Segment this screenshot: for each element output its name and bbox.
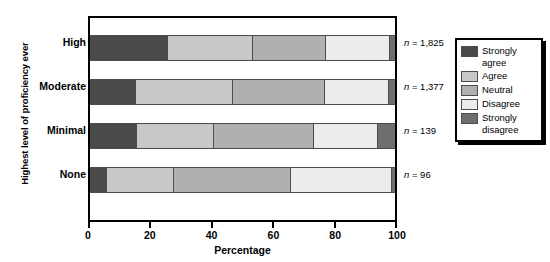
legend-swatch-icon [461, 113, 478, 124]
sample-size-symbol: n [404, 81, 409, 92]
bar-segment [325, 79, 389, 105]
legend-item-label: Neutral [482, 84, 513, 96]
legend-item-label: Strongly agree [482, 45, 536, 68]
bar-segment [253, 35, 326, 61]
bar-segment [326, 35, 390, 61]
x-axis-tick [149, 222, 151, 228]
sample-size-symbol: n [404, 125, 409, 136]
bar-segment [136, 79, 234, 105]
legend-item: Strongly agree [461, 45, 536, 68]
x-axis-tick-label: 20 [130, 229, 170, 241]
plot-area [88, 16, 397, 222]
legend-item: Disagree [461, 98, 536, 110]
x-axis-tick [272, 222, 274, 228]
legend-item: Strongly disagree [461, 112, 536, 135]
sample-size-label: n = 1,377 [404, 81, 444, 92]
legend-item-label: Agree [482, 70, 507, 82]
legend-swatch-icon [461, 99, 478, 110]
bar-segment [214, 123, 315, 149]
x-axis-tick [88, 222, 90, 228]
bar-segment [107, 167, 174, 193]
legend-item: Agree [461, 70, 536, 82]
sample-size-label: n = 1,825 [404, 37, 444, 48]
y-axis-tick-label: Minimal [24, 124, 86, 136]
x-axis-tick-label: 40 [192, 229, 232, 241]
legend-swatch-icon [461, 85, 478, 96]
bar-segment [90, 79, 136, 105]
x-axis-tick [211, 222, 213, 228]
y-axis-tick-label: Moderate [24, 80, 86, 92]
legend-item: Neutral [461, 84, 536, 96]
chart-figure: Highest level of proficiency ever HighMo… [0, 0, 550, 262]
bar-segment [90, 167, 107, 193]
y-axis-tick-label: None [24, 168, 86, 180]
x-axis-label: Percentage [88, 244, 397, 256]
x-axis-tick-label: 60 [253, 229, 293, 241]
legend-swatch-icon [461, 46, 478, 57]
bar-segment [168, 35, 253, 61]
bar-segment [389, 79, 395, 105]
y-axis-tick-label: High [24, 36, 86, 48]
x-axis-tick-label: 80 [315, 229, 355, 241]
bar-segment [291, 167, 392, 193]
sample-size-symbol: n [404, 169, 409, 180]
y-axis-tick-labels: HighModerateMinimalNone [20, 0, 86, 222]
chart-legend: Strongly agreeAgreeNeutralDisagreeStrong… [455, 38, 543, 142]
bar-segment [233, 79, 325, 105]
bar-row [90, 79, 395, 105]
x-axis-tick [334, 222, 336, 228]
x-axis-tick-label: 0 [68, 229, 108, 241]
bar-segment [378, 123, 395, 149]
bar-segment [137, 123, 213, 149]
bar-segment [390, 35, 395, 61]
bar-segment [90, 123, 137, 149]
bar-row [90, 35, 395, 61]
bar-segment [392, 167, 395, 193]
x-axis-tick [395, 222, 397, 228]
x-axis-ticks [88, 222, 397, 229]
bar-row [90, 167, 395, 193]
sample-size-symbol: n [404, 37, 409, 48]
legend-item-label: Strongly disagree [482, 112, 536, 135]
x-axis-tick-labels: 020406080100 [88, 229, 397, 243]
sample-size-label: n = 96 [404, 169, 431, 180]
bar-segment [90, 35, 168, 61]
legend-swatch-icon [461, 71, 478, 82]
x-axis-tick-label: 100 [377, 229, 417, 241]
sample-size-label: n = 139 [404, 125, 436, 136]
bar-segment [174, 167, 291, 193]
bar-row [90, 123, 395, 149]
legend-item-label: Disagree [482, 98, 520, 110]
bar-segment [314, 123, 378, 149]
